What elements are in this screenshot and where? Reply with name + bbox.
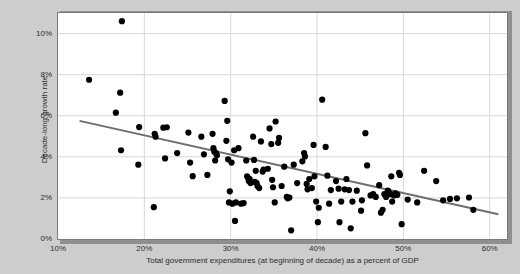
data-point xyxy=(227,188,233,194)
data-point xyxy=(358,208,364,214)
data-point xyxy=(135,162,141,168)
data-point xyxy=(235,145,241,151)
data-point xyxy=(313,199,319,205)
data-point xyxy=(256,185,262,191)
y-axis-tick-label: 8% xyxy=(4,70,52,79)
data-point xyxy=(397,172,403,178)
data-point xyxy=(268,141,274,147)
data-point xyxy=(224,118,230,124)
data-point xyxy=(136,124,142,130)
data-point xyxy=(272,199,278,205)
data-point xyxy=(388,173,394,179)
data-point xyxy=(187,159,193,165)
data-point xyxy=(336,186,342,192)
data-point xyxy=(232,218,238,224)
data-point xyxy=(394,192,400,198)
data-point xyxy=(209,131,215,137)
data-point xyxy=(328,187,334,193)
data-point xyxy=(266,125,272,131)
data-point xyxy=(251,157,257,163)
data-point xyxy=(198,134,204,140)
data-point xyxy=(265,166,271,172)
data-point xyxy=(233,199,239,205)
y-axis-tick-label: 4% xyxy=(4,152,52,161)
data-point xyxy=(333,178,339,184)
x-axis-tick-label: 50% xyxy=(383,244,423,253)
data-point xyxy=(288,227,294,233)
scatter-plot-svg xyxy=(58,13,507,239)
data-point xyxy=(164,124,170,130)
y-axis-tick-label: 0% xyxy=(4,234,52,243)
data-point xyxy=(336,219,342,225)
data-point xyxy=(373,194,379,200)
data-point xyxy=(253,168,259,174)
y-axis-tick-label: 10% xyxy=(4,29,52,38)
data-point xyxy=(151,204,157,210)
data-point xyxy=(222,98,228,104)
data-point xyxy=(348,225,354,231)
data-point xyxy=(113,110,119,116)
data-point xyxy=(190,173,196,179)
x-axis-tick-label: 10% xyxy=(38,244,78,253)
data-point xyxy=(343,176,349,182)
chart-container: Decade-long growth rate 0%2%4%6%8%10% 10… xyxy=(0,0,520,274)
data-point xyxy=(117,90,123,96)
data-point xyxy=(270,184,276,190)
data-point xyxy=(316,205,322,211)
data-point xyxy=(279,183,285,189)
y-axis-tick-label: 2% xyxy=(4,193,52,202)
grid-lines xyxy=(58,13,507,239)
data-point xyxy=(324,173,330,179)
data-point xyxy=(243,157,249,163)
data-point xyxy=(399,221,405,227)
data-point xyxy=(258,138,264,144)
data-point xyxy=(244,173,250,179)
data-point xyxy=(174,150,180,156)
x-axis-title: Total government expenditures (at beginn… xyxy=(57,256,508,265)
data-point xyxy=(376,182,382,188)
data-point xyxy=(319,97,325,103)
plot-area xyxy=(57,12,508,240)
x-axis-tick-label: 20% xyxy=(124,244,164,253)
data-point xyxy=(359,197,365,203)
data-point xyxy=(414,199,420,205)
data-point xyxy=(470,207,476,213)
data-point xyxy=(250,134,256,140)
data-point xyxy=(421,168,427,174)
data-point xyxy=(310,142,316,148)
data-point xyxy=(364,162,370,168)
data-point xyxy=(118,147,124,153)
data-point xyxy=(201,151,207,157)
x-axis-tick-label: 40% xyxy=(297,244,337,253)
data-point xyxy=(185,129,191,135)
data-point xyxy=(152,134,158,140)
data-point xyxy=(214,152,220,158)
data-point xyxy=(323,144,329,150)
data-point xyxy=(362,130,368,136)
data-point xyxy=(269,177,275,183)
data-point xyxy=(338,199,344,205)
data-point xyxy=(309,185,315,191)
data-point xyxy=(86,77,92,83)
data-point xyxy=(223,138,229,144)
data-point xyxy=(212,157,218,163)
data-point xyxy=(354,188,360,194)
data-point xyxy=(272,118,278,124)
data-point xyxy=(389,199,395,205)
data-point xyxy=(433,178,439,184)
data-point xyxy=(162,155,168,161)
data-point xyxy=(454,195,460,201)
data-point xyxy=(380,207,386,213)
x-axis-tick-label: 30% xyxy=(211,244,251,253)
data-point xyxy=(241,200,247,206)
data-point xyxy=(285,195,291,201)
data-point xyxy=(342,186,348,192)
y-axis-tick-label: 6% xyxy=(4,111,52,120)
data-point xyxy=(315,219,321,225)
data-point xyxy=(326,201,332,207)
data-point xyxy=(349,199,355,205)
data-point xyxy=(311,173,317,179)
data-point xyxy=(294,180,300,186)
data-point xyxy=(204,172,210,178)
data-point xyxy=(302,153,308,159)
